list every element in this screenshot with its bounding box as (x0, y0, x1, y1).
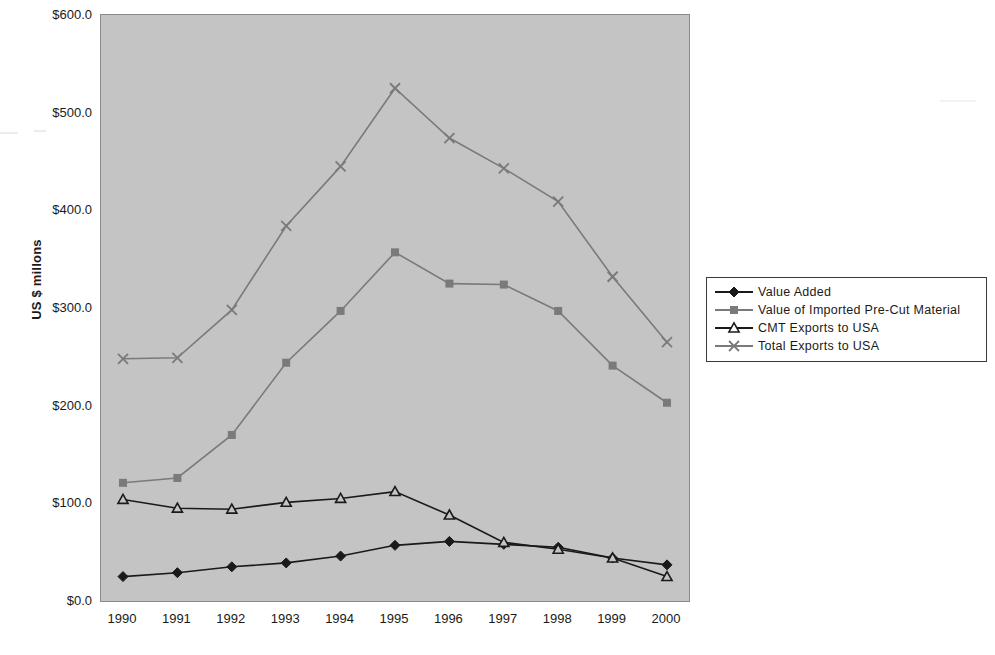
y-axis-tick-label: $500.0 (18, 106, 92, 119)
plot-area (100, 14, 690, 602)
series-1 (118, 536, 672, 581)
legend-item-label: CMT Exports to USA (755, 321, 879, 335)
y-axis-ticks: $0.0$100.0$200.0$300.0$400.0$500.0$600.0 (14, 0, 92, 655)
x-axis-tick-label: 1992 (201, 612, 261, 625)
legend-triangle-icon (713, 320, 755, 336)
line-chart: US $ millons $0.0$100.0$200.0$300.0$400.… (0, 0, 995, 655)
series-3 (118, 487, 672, 581)
series-2 (119, 248, 671, 486)
legend-item: Value of Imported Pre-Cut Material (713, 301, 980, 319)
x-axis-tick-label: 1999 (582, 612, 642, 625)
legend-item: CMT Exports to USA (713, 319, 980, 337)
legend-square-icon (713, 302, 755, 318)
legend-item-label: Total Exports to USA (755, 339, 879, 353)
series-4 (118, 83, 672, 364)
legend-cross-icon (713, 338, 755, 354)
x-axis-tick-label: 1993 (255, 612, 315, 625)
y-axis-tick-label: $600.0 (18, 8, 92, 21)
x-axis-tick-label: 1995 (364, 612, 424, 625)
legend-item: Value Added (713, 283, 980, 301)
x-axis-tick-label: 2000 (636, 612, 696, 625)
scan-artifact (940, 100, 976, 102)
chart-legend: Value AddedValue of Imported Pre-Cut Mat… (706, 277, 987, 362)
x-axis-tick-label: 1994 (310, 612, 370, 625)
y-axis-tick-label: $100.0 (18, 496, 92, 509)
x-axis-tick-label: 1996 (418, 612, 478, 625)
x-axis-tick-label: 1991 (146, 612, 206, 625)
legend-item-label: Value Added (755, 285, 831, 299)
y-axis-tick-label: $400.0 (18, 203, 92, 216)
x-axis-tick-label: 1997 (473, 612, 533, 625)
x-axis-tick-label: 1998 (527, 612, 587, 625)
legend-item-label: Value of Imported Pre-Cut Material (755, 303, 960, 317)
legend-diamond-icon (713, 284, 755, 300)
x-axis-tick-label: 1990 (92, 612, 152, 625)
series-canvas (101, 15, 689, 601)
legend-item: Total Exports to USA (713, 337, 980, 355)
x-axis-ticks: 1990199119921993199419951996199719981999… (0, 612, 995, 636)
y-axis-tick-label: $0.0 (18, 594, 92, 607)
y-axis-tick-label: $200.0 (18, 399, 92, 412)
y-axis-tick-label: $300.0 (18, 301, 92, 314)
